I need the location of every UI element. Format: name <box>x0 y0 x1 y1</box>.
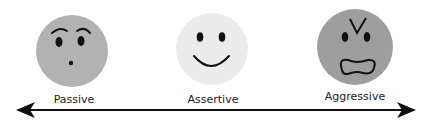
assertive-label: Assertive <box>188 93 239 106</box>
passive-label: Passive <box>54 93 95 106</box>
aggressive-face-icon <box>317 9 393 85</box>
aggressive-label: Aggressive <box>325 90 385 103</box>
assertive-face-icon <box>176 13 248 85</box>
passive-face-icon <box>36 15 108 87</box>
